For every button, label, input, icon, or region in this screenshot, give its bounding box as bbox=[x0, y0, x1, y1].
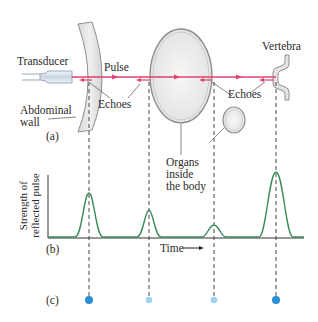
panel-label-c: (c) bbox=[46, 294, 59, 306]
dot-organ-back bbox=[211, 297, 218, 304]
echo-dots bbox=[85, 296, 280, 304]
dot-organ-front bbox=[146, 297, 153, 304]
panel-label-a: (a) bbox=[46, 130, 59, 142]
panel-label-b: (b) bbox=[46, 243, 59, 255]
label-abdominal: Abdominal bbox=[20, 104, 72, 116]
transducer-icon bbox=[22, 71, 72, 83]
y-axis-label-line2: reflected pulse bbox=[30, 161, 42, 251]
x-axis-label: Time bbox=[160, 242, 184, 254]
label-wall: wall bbox=[20, 116, 40, 128]
label-echoes-left: Echoes bbox=[98, 98, 131, 110]
label-transducer: Transducer bbox=[17, 55, 68, 67]
small-organ bbox=[223, 107, 245, 133]
label-the-body: the body bbox=[166, 180, 206, 192]
ultrasound-diagram: Transducer Pulse Echoes Echoes Vertebra … bbox=[0, 0, 318, 322]
label-organs: Organs bbox=[166, 156, 199, 168]
large-organ bbox=[150, 29, 212, 123]
dot-vertebra bbox=[272, 296, 280, 304]
label-echoes-right: Echoes bbox=[228, 88, 261, 100]
y-axis-label: Strength of reflected pulse bbox=[18, 161, 41, 251]
time-arrow-icon bbox=[183, 246, 204, 250]
y-axis-label-line1: Strength of bbox=[18, 161, 30, 251]
dot-abdominal-wall bbox=[85, 296, 93, 304]
label-inside: inside bbox=[166, 168, 193, 180]
label-pulse: Pulse bbox=[104, 61, 129, 73]
label-vertebra: Vertebra bbox=[262, 40, 301, 52]
